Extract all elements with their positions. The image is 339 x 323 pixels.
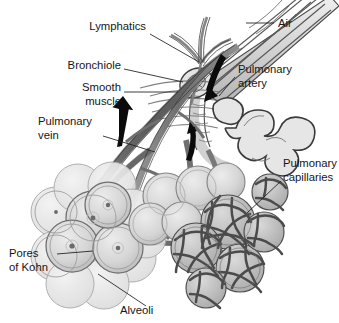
label-pulmonary-vein-line1: Pulmonary [38,115,92,127]
label-alveoli: Alveoli [120,304,153,316]
pulmonary-acinus-figure: Lymphatics Bronchiole Smooth muscle Pulm… [0,0,339,323]
label-pores-of-kohn-line1: Pores [9,247,39,259]
label-pulmonary-vein-line2: vein [38,129,59,141]
label-pores-of-kohn-line2: of Kohn [9,261,48,273]
label-smooth-muscle-line2: muscle [85,95,121,107]
label-pulmonary-capillaries-line1: Pulmonary [283,157,337,169]
label-smooth-muscle-line1: Smooth [82,81,121,93]
label-air: Air [278,17,292,29]
label-pulmonary-capillaries-line2: capillaries [283,171,334,183]
label-bronchiole: Bronchiole [68,59,121,71]
label-lymphatics: Lymphatics [89,20,146,32]
label-pulmonary-artery-line2: artery [238,77,267,89]
label-pulmonary-artery-line1: Pulmonary [238,63,292,75]
anatomy-illustration: Lymphatics Bronchiole Smooth muscle Pulm… [0,0,339,323]
